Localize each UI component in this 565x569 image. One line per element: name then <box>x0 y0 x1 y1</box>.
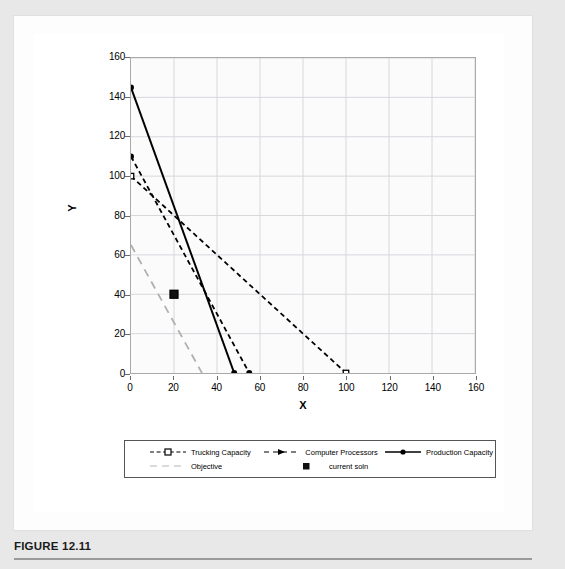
x-tick-mark <box>173 376 174 380</box>
series-marker-computer-processors <box>131 153 134 159</box>
y-tick-mark <box>125 136 130 137</box>
y-axis-ticks: 020406080100120140160 <box>92 57 125 374</box>
plot-area <box>130 57 476 374</box>
legend-item-trucking-capacity: Trucking Capacity <box>127 446 253 458</box>
series-marker-current-soln <box>170 290 178 298</box>
y-tick-label: 40 <box>95 289 125 300</box>
y-tick-mark <box>125 295 130 296</box>
x-axis-ticks: 020406080100120140160 <box>130 376 476 396</box>
x-tick-mark <box>346 376 347 380</box>
series-marker-production-capacity <box>131 85 134 91</box>
x-tick-mark <box>303 376 304 380</box>
y-tick-label: 140 <box>95 91 125 102</box>
x-tick-mark <box>130 376 131 380</box>
x-tick-mark <box>260 376 261 380</box>
plot-wrapper: Y 020406080100120140160 0204060801001201… <box>62 42 482 472</box>
y-tick-mark <box>125 176 130 177</box>
x-tick-label: 20 <box>168 382 179 393</box>
series-line-trucking-capacity <box>131 176 346 373</box>
y-tick-mark <box>125 374 130 375</box>
series-marker-computer-processors <box>246 370 252 373</box>
y-tick-mark <box>125 255 130 256</box>
legend-label: Computer Processors <box>305 448 378 457</box>
y-tick-mark <box>125 334 130 335</box>
legend-item-current-soln: current soln <box>277 460 407 472</box>
y-tick-label: 0 <box>95 368 125 379</box>
series-marker-trucking-capacity <box>131 173 134 178</box>
dashed-square-key-icon <box>149 446 187 458</box>
solid-circle-key-icon <box>384 446 422 458</box>
long-dashed-key-icon <box>149 460 187 472</box>
series-line-objective <box>131 245 202 373</box>
x-tick-label: 160 <box>468 382 484 393</box>
x-tick-label: 80 <box>298 382 309 393</box>
x-tick-label: 60 <box>254 382 265 393</box>
legend-label: current soln <box>329 462 368 471</box>
plot-svg <box>131 58 475 373</box>
legend-label: Production Capacity <box>426 448 493 457</box>
series-line-computer-processors <box>131 156 249 373</box>
y-tick-mark <box>125 216 130 217</box>
x-tick-label: 100 <box>338 382 354 393</box>
chart-container: Y 020406080100120140160 0204060801001201… <box>34 34 504 512</box>
legend-item-production-capacity: Production Capacity <box>378 446 493 458</box>
y-tick-label: 100 <box>95 170 125 181</box>
y-tick-label: 20 <box>95 328 125 339</box>
dashed-triangle-key-icon <box>263 446 301 458</box>
x-tick-mark <box>476 376 477 380</box>
y-tick-mark <box>125 57 130 58</box>
series-marker-production-capacity <box>231 370 237 373</box>
legend-row-top: Trucking Capacity Computer Processors <box>127 445 493 459</box>
series-line-production-capacity <box>131 88 234 373</box>
x-tick-label: 120 <box>381 382 397 393</box>
legend-item-computer-processors: Computer Processors <box>253 446 378 458</box>
x-tick-mark <box>390 376 391 380</box>
y-tick-label: 80 <box>95 210 125 221</box>
x-axis-label: X <box>130 399 476 411</box>
chart-legend: Trucking Capacity Computer Processors <box>124 440 496 478</box>
y-tick-mark <box>125 97 130 98</box>
series-marker-trucking-capacity <box>343 370 348 373</box>
legend-label: Trucking Capacity <box>191 448 251 457</box>
y-tick-label: 60 <box>95 249 125 260</box>
figure-caption-rule <box>14 558 532 560</box>
figure-page-card: Y 020406080100120140160 0204060801001201… <box>14 16 532 530</box>
legend-row-bottom: Objective current soln <box>127 459 493 473</box>
y-tick-label: 160 <box>95 51 125 62</box>
figure-caption: FIGURE 12.11 <box>0 538 565 569</box>
x-tick-mark <box>217 376 218 380</box>
legend-item-objective: Objective <box>127 460 277 472</box>
x-tick-label: 140 <box>425 382 441 393</box>
x-tick-label: 0 <box>127 382 132 393</box>
figure-caption-label: FIGURE 12.11 <box>14 540 91 552</box>
square-marker-key-icon <box>287 460 325 472</box>
legend-label: Objective <box>191 462 222 471</box>
x-tick-mark <box>433 376 434 380</box>
y-tick-label: 120 <box>95 130 125 141</box>
y-axis-label: Y <box>66 204 78 211</box>
x-tick-label: 40 <box>211 382 222 393</box>
